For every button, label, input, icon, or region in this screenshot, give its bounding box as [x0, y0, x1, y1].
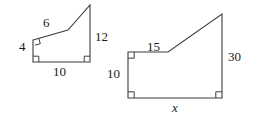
left-right-angle-mark-bottom-left — [33, 56, 39, 62]
right-side-label-30: 30 — [228, 50, 241, 63]
right-side-label-15: 15 — [147, 40, 160, 53]
left-side-label-4: 4 — [19, 40, 26, 53]
left-polygon-outline — [33, 5, 90, 62]
right-side-label-10: 10 — [107, 67, 120, 80]
left-side-label-10: 10 — [53, 65, 66, 78]
right-right-angle-mark-top-left — [128, 52, 134, 58]
right-right-angle-mark-bottom-left — [128, 92, 134, 98]
left-right-angle-mark-bottom-right — [84, 56, 90, 62]
right-polygon-outline — [128, 14, 222, 98]
right-side-label-x: x — [172, 101, 178, 114]
right-polygon — [128, 14, 222, 98]
left-polygon — [33, 5, 90, 62]
right-right-angle-mark-bottom-right — [216, 92, 222, 98]
geometry-figure-canvas — [0, 0, 256, 118]
left-side-label-12: 12 — [95, 30, 108, 43]
left-side-label-6: 6 — [43, 16, 50, 29]
